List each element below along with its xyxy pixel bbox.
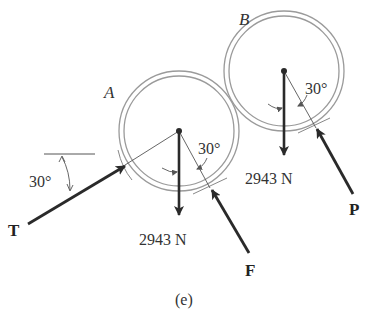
diagram-svg: B 30° 2943 N A 30° 2943 N 30° T F xyxy=(0,0,373,332)
force-t-angle-label: 30° xyxy=(29,173,51,190)
cylinder-a-label: A xyxy=(103,83,115,102)
force-p-label: P xyxy=(349,200,359,219)
cylinder-a-weight-label: 2943 N xyxy=(139,231,187,248)
cylinder-b-angle-label: 30° xyxy=(305,80,327,97)
cylinder-a-center-dot xyxy=(176,128,182,134)
cylinder-b-contact-tick xyxy=(298,118,330,133)
force-t-angle-arc xyxy=(62,157,70,190)
figure-caption: (e) xyxy=(175,291,193,309)
cylinder-b-angle-arc-left xyxy=(268,104,282,109)
force-p: P xyxy=(317,129,359,219)
force-p-arrow xyxy=(317,129,353,194)
force-f-arrow xyxy=(212,190,249,253)
force-t: 30° T xyxy=(8,154,125,240)
force-t-label: T xyxy=(8,221,20,240)
force-f-label: F xyxy=(245,261,255,280)
force-f: F xyxy=(212,190,255,280)
cylinder-b-label: B xyxy=(239,10,250,29)
free-body-diagram: B 30° 2943 N A 30° 2943 N 30° T F xyxy=(0,0,373,332)
cylinder-a: A 30° 2943 N xyxy=(103,71,239,248)
cylinder-b: B 30° 2943 N xyxy=(224,10,344,187)
cylinder-b-center-dot xyxy=(281,68,287,74)
cylinder-b-weight-label: 2943 N xyxy=(245,170,293,187)
cylinder-a-angle-label: 30° xyxy=(198,140,220,157)
force-t-angle-arrow-top xyxy=(59,156,65,162)
